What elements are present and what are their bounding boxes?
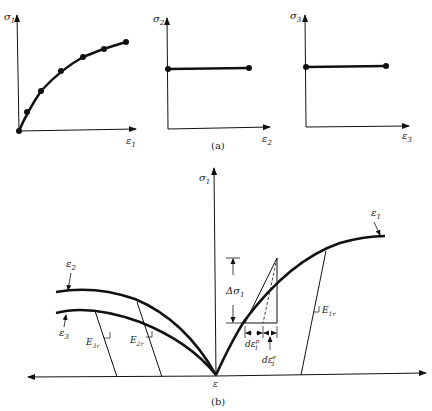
caption-a: (a) [211, 140, 225, 151]
plastic-strain-increment-label: dεp1 [245, 337, 260, 351]
y-axis [305, 15, 306, 127]
y-axis [167, 18, 168, 129]
sigma1-axis [214, 168, 216, 376]
stress-line [306, 66, 386, 67]
eps3-label: ε3 [59, 327, 69, 341]
plot-a1: σ1 ε1 [4, 11, 136, 149]
stress-strain-curve [19, 42, 126, 131]
x-axis-label: ε3 [402, 130, 412, 144]
curve-eps2 [56, 290, 216, 375]
y-axis [17, 15, 19, 131]
x-axis-label: ε2 [262, 133, 272, 147]
E1r-label: E1r [321, 305, 336, 317]
E2r-label: E2r [129, 335, 144, 347]
eps2-label: ε2 [66, 258, 76, 272]
plot-a2: σ2 ε2 [153, 13, 272, 147]
delta-sigma1-label: Δσ1 [225, 285, 245, 299]
x-axis [306, 126, 409, 127]
origin-eps-label: ε [213, 379, 218, 389]
eps1-label: ε1 [371, 207, 381, 221]
x-axis-right [216, 373, 426, 376]
y-axis-label: σ3 [290, 10, 302, 24]
curve-eps1 [216, 236, 385, 375]
sigma1-axis-label: σ1 [199, 172, 210, 186]
E3r-label: E3r [85, 337, 100, 349]
x-axis [168, 127, 270, 129]
x-axis-left [28, 376, 216, 377]
stress-line [168, 68, 249, 69]
stress-strain-diagram: σ1 ε1 σ2 ε2 σ3 ε3 (a) σ1 ε1 [0, 0, 432, 411]
increment-triangle [245, 258, 277, 323]
plot-a3: σ3 ε3 [290, 10, 412, 144]
plot-b: σ1 ε1 ε2 ε3 E3r E2r E1r Δσ1 [28, 168, 426, 389]
x-axis-label: ε1 [126, 135, 136, 149]
y-axis-label: σ2 [153, 13, 165, 27]
elastic-strain-increment-label: dεe1 [262, 353, 277, 367]
data-points [16, 39, 129, 134]
x-axis [19, 129, 136, 131]
y-axis-label: σ1 [4, 11, 15, 25]
caption-b: (b) [211, 396, 225, 407]
